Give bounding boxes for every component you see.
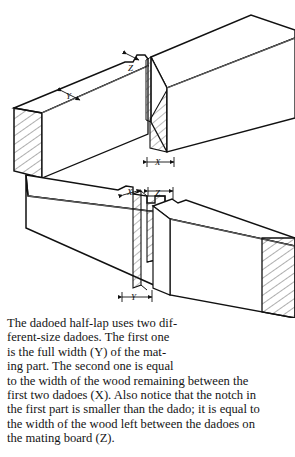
caption-line: is the full width (Y) of the mat- — [7, 345, 290, 359]
upper-right-board-dado-sliver — [146, 57, 151, 122]
page-root: Y Z X X — [0, 0, 295, 457]
dimension-x-lower-label: X — [126, 187, 133, 197]
lower-right-board-notch-wall — [153, 206, 170, 295]
caption-line: the width of the wood left between the d… — [7, 417, 290, 431]
joint-diagram-figure: Y Z X X — [0, 0, 295, 318]
caption-line: the mating board (Z). — [7, 431, 290, 445]
caption-line: to the width of the wood remaining betwe… — [7, 374, 290, 388]
caption-line: the first part is smaller than the dado;… — [7, 402, 290, 416]
caption-text: The dadoed half-lap uses two dif- ferent… — [7, 316, 290, 446]
lower-left-board-tongue-strip — [133, 191, 141, 288]
upper-left-board-end-grain — [14, 108, 42, 178]
caption-line: ing part. The second one is equal — [7, 359, 290, 373]
caption-line: first two dadoes (X). Also notice that t… — [7, 388, 290, 402]
joint-diagram-svg: Y Z X X — [0, 0, 295, 318]
lower-right-board-end-grain — [262, 238, 295, 318]
caption-line: ferent-size dadoes. The first one — [7, 330, 290, 344]
dimension-x-upper-label: X — [154, 157, 161, 167]
caption-line: The dadoed half-lap uses two dif- — [7, 316, 290, 330]
